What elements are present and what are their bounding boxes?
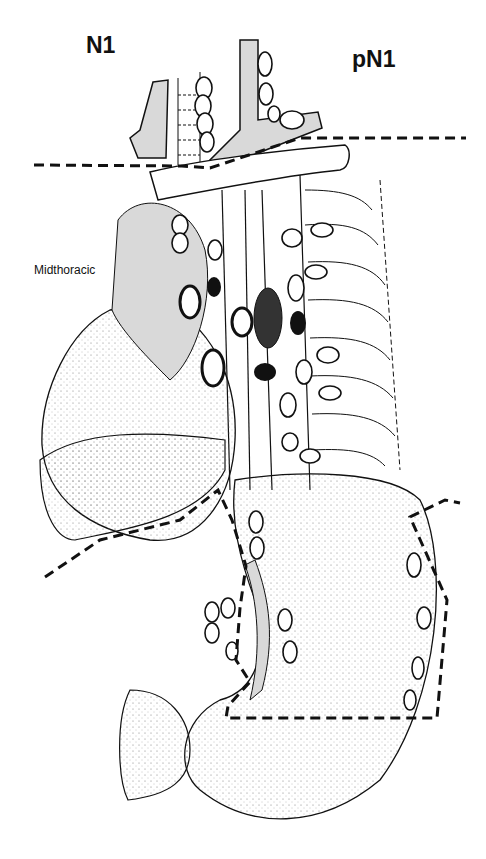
stomach (185, 474, 437, 819)
duodenum (120, 690, 190, 800)
great-vessels (130, 40, 322, 168)
anatomy-illustration (0, 0, 486, 859)
tumor-mass (254, 288, 282, 348)
